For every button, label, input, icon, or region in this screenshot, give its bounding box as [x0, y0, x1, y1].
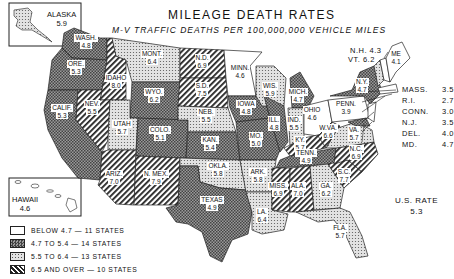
state-value: 7.0 — [292, 190, 303, 198]
state-name: FLA. — [332, 224, 348, 232]
state-label-tenn: TENN.4.9 — [292, 149, 320, 164]
state-value: 8.0 — [110, 82, 121, 90]
state-label-sd: S.D.7.5 — [188, 82, 216, 97]
vt-label: VT. 6.2 — [348, 55, 375, 64]
state-label-fla: FLA.5.7 — [326, 224, 354, 239]
state-name: S.D. — [195, 82, 210, 90]
state-label-ore: ORE.5.3 — [62, 60, 90, 75]
state-name: LA. — [256, 208, 268, 216]
ne-name: MD. — [402, 140, 417, 149]
state-value: 5.5 — [86, 108, 97, 116]
ne-value: 3.5 — [442, 85, 454, 94]
legend-label: 5.5 TO 6.4 — 13 STATES — [31, 253, 122, 260]
state-value: 5.8 — [212, 170, 223, 178]
state-value: 4.7 — [356, 86, 367, 94]
state-label-ala: ALA.7.0 — [284, 182, 312, 197]
state-label-nd: N.D.6.9 — [188, 54, 216, 69]
state-value: 6.2 — [320, 190, 331, 198]
state-value: 5.5 — [288, 124, 299, 132]
state-value: 5.3 — [70, 68, 81, 76]
state-name: N.D. — [195, 54, 210, 62]
legend-item-below: BELOW 4.7 — 11 STATES — [10, 224, 137, 237]
state-name: KY. — [294, 136, 306, 144]
state-name: IOWA — [236, 100, 255, 108]
alaska-value: 5.9 — [47, 19, 76, 28]
state-value: 5.0 — [250, 140, 261, 148]
state-value: 6.9 — [350, 153, 361, 161]
state-name: COLO. — [149, 126, 171, 134]
state-value: 5.7 — [116, 128, 127, 136]
state-label-okla: OKLA.5.8 — [204, 162, 232, 177]
state-value: 4.8 — [80, 42, 91, 50]
state-label-me: ME4.1 — [382, 50, 410, 65]
ne-list-conn: CONN.3.0 — [402, 107, 429, 116]
ne-list-mass: MASS.3.5 — [402, 85, 428, 94]
state-value: 6.9 — [196, 62, 207, 70]
state-value: 7.9 — [150, 178, 161, 186]
legend: BELOW 4.7 — 11 STATES 4.7 TO 5.4 — 14 ST… — [10, 224, 137, 276]
state-label-sc: S.C.7.7 — [330, 168, 358, 183]
state-label-mont: MONT.6.4 — [138, 50, 166, 65]
state-label-wyo: WYO.6.2 — [140, 88, 168, 103]
legend-item-diagonal: 6.5 AND OVER — 10 STATES — [10, 263, 137, 276]
state-name: N. MEX. — [143, 170, 169, 178]
state-label-nmex: N. MEX.7.9 — [142, 170, 170, 185]
state-label-va: VA.5.7 — [340, 126, 368, 141]
state-value: 7.7 — [338, 176, 349, 184]
state-name: MINN. — [230, 64, 250, 72]
state-value: 4.6 — [234, 72, 245, 80]
state-label-calif: CALIF.5.3 — [48, 104, 76, 119]
state-label-colo: COLO.5.1 — [146, 126, 174, 141]
state-label-mich: MICH.4.7 — [284, 88, 312, 103]
state-value: 6.4 — [256, 216, 267, 224]
us-rate-label: U.S. RATE — [395, 195, 438, 206]
state-label-nev: NEV.5.5 — [78, 100, 106, 115]
state-name: OKLA. — [207, 162, 228, 170]
state-name: ALA. — [290, 182, 306, 190]
state-name: N.Y. — [355, 78, 369, 86]
state-label-iowa: IOWA4.8 — [232, 100, 260, 115]
nh-label: N.H. 4.3 — [350, 46, 382, 55]
state-label-wash: WASH.4.8 — [72, 34, 100, 49]
state-name: ME — [390, 50, 402, 58]
ne-name: CONN. — [402, 107, 429, 116]
state-label-wva: W.VA.6.6 — [314, 124, 342, 139]
state-value: 6.4 — [146, 58, 157, 66]
state-value: 4.9 — [206, 204, 217, 212]
state-name: ARIZ. — [105, 170, 124, 178]
state-name: IDAHO — [105, 74, 128, 82]
state-label-kan: KAN.5.4 — [196, 136, 224, 151]
state-name: GA. — [319, 182, 332, 190]
state-label-mo: MO.5.0 — [242, 132, 270, 147]
state-name: TEXAS — [200, 196, 223, 204]
hawaii-label: HAWAII 4.6 — [12, 195, 38, 213]
state-label-ariz: ARIZ.7.0 — [100, 170, 128, 185]
state-value: 5.5 — [200, 116, 211, 124]
state-name: PENN. — [335, 100, 357, 108]
state-value: 7.5 — [196, 90, 207, 98]
state-value: 6.6 — [322, 132, 333, 140]
state-name: MICH. — [288, 88, 308, 96]
legend-label: 4.7 TO 5.4 — 14 STATES — [31, 240, 122, 247]
state-value: 4.9 — [300, 157, 311, 165]
legend-label: BELOW 4.7 — 11 STATES — [31, 227, 124, 234]
ne-list-md: MD.4.7 — [402, 140, 417, 149]
state-label-idaho: IDAHO8.0 — [102, 74, 130, 89]
state-name: N.C. — [349, 145, 364, 153]
us-rate-value: 5.3 — [395, 206, 438, 217]
state-name: CALIF. — [51, 104, 73, 112]
ne-value: 2.7 — [442, 96, 454, 105]
ne-value: 3.5 — [442, 118, 454, 127]
us-rate: U.S. RATE 5.3 — [395, 195, 438, 217]
state-label-ark: ARK.5.8 — [244, 168, 272, 183]
state-label-la: LA.6.4 — [248, 208, 276, 223]
state-value: 7.0 — [108, 178, 119, 186]
state-label-utah: UTAH5.7 — [108, 120, 136, 135]
ne-value: 4.0 — [442, 129, 454, 138]
state-value: 4.8 — [268, 124, 279, 132]
legend-item-dots: 5.5 TO 6.4 — 13 STATES — [10, 250, 137, 263]
ne-name: R.I. — [402, 96, 416, 105]
state-value: 3.9 — [340, 108, 351, 116]
blank-swatch-icon — [10, 226, 25, 235]
hawaii-name: HAWAII — [12, 195, 38, 204]
